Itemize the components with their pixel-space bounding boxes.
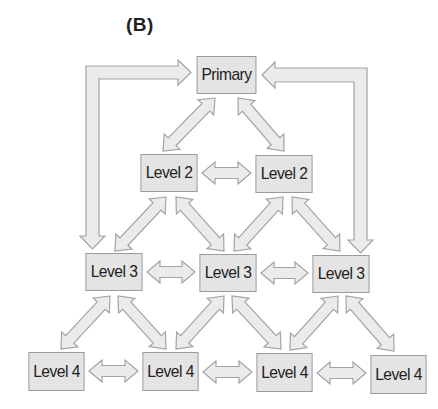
node-label: Level 4 [261, 363, 308, 383]
node-level-2: Level 2 [140, 154, 197, 192]
node-level-4: Level 4 [142, 352, 198, 391]
node-label: Level 4 [375, 365, 422, 385]
node-label: Level 3 [91, 262, 138, 282]
double-arrow-icon [238, 98, 284, 151]
double-arrow-icon [89, 360, 138, 382]
node-level-4: Level 4 [28, 352, 84, 391]
node-level-4: Level 4 [370, 355, 426, 394]
node-level-3: Level 3 [199, 254, 256, 292]
double-arrow-icon [234, 197, 283, 251]
node-level-4: Level 4 [256, 353, 312, 392]
double-arrow-icon [176, 296, 224, 349]
hierarchy-diagram: (B) Primary Level 2 Level 2 Level 3 Leve… [0, 0, 438, 409]
double-arrow-icon [115, 197, 166, 251]
node-level-3: Level 3 [85, 253, 142, 291]
double-arrow-icon [118, 296, 166, 349]
node-label: Primary [201, 65, 251, 85]
double-arrow-icon [203, 361, 252, 383]
double-arrow-icon [292, 197, 340, 251]
double-arrow-icon [147, 261, 195, 283]
double-arrow-icon [163, 98, 215, 151]
node-label: Level 3 [318, 264, 365, 284]
double-arrow-icon [61, 296, 110, 349]
node-level-2: Level 2 [255, 155, 312, 193]
double-arrow-icon [261, 262, 308, 284]
double-arrow-icon [346, 296, 394, 351]
double-arrow-icon [290, 296, 338, 350]
node-label: Level 3 [205, 263, 252, 283]
double-arrow-icon [232, 296, 281, 349]
node-primary: Primary [197, 56, 257, 94]
double-arrow-icon [176, 197, 224, 251]
node-label: Level 4 [147, 362, 194, 382]
node-level-3: Level 3 [312, 255, 369, 293]
node-label: Level 2 [146, 163, 193, 183]
double-arrow-icon [317, 362, 366, 384]
node-label: Level 4 [33, 362, 80, 382]
node-label: Level 2 [261, 164, 308, 184]
double-arrow-icon [202, 162, 251, 184]
